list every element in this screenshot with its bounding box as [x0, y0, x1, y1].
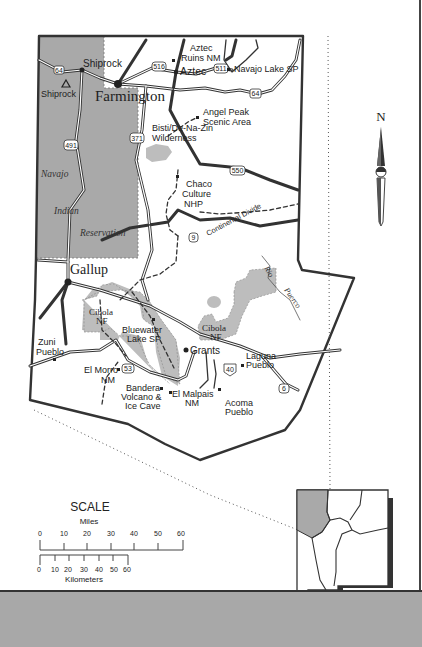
svg-text:516: 516 [153, 63, 165, 70]
label-bluewater-2: Lake SP [127, 334, 161, 344]
svg-text:9: 9 [192, 234, 196, 241]
label-el-malpais-2: NM [185, 398, 199, 408]
shield-511: 511 [214, 64, 228, 73]
km-tick-10: 10 [51, 566, 59, 573]
km-tick-40: 40 [95, 566, 103, 573]
gallup-dot [65, 279, 72, 286]
navajo-reservation-area [36, 36, 138, 258]
shield-9: 9 [189, 233, 198, 242]
label-aztec: Aztec [180, 65, 206, 77]
svg-text:511: 511 [215, 65, 226, 72]
angel-peak-marker [196, 116, 199, 119]
acoma-marker [218, 388, 221, 391]
shield-53: 53 [122, 364, 134, 373]
svg-text:491: 491 [65, 142, 77, 149]
grants-dot [184, 348, 189, 353]
leader-line-top [328, 36, 330, 490]
label-zuni-2: Pueblo [36, 347, 64, 357]
label-farmington: Farmington [95, 88, 165, 104]
label-laguna-2: Pueblo [246, 360, 274, 370]
svg-text:371: 371 [131, 135, 143, 142]
label-chaco-1: Chaco [186, 179, 212, 189]
label-aztec-ruins-1: Aztec [190, 43, 213, 53]
km-tick-30: 30 [80, 566, 88, 573]
label-cibola-east-2: NF [210, 332, 222, 342]
new-mexico-locator-map [297, 490, 393, 598]
label-indian: Indian [53, 206, 79, 216]
scale-km-label: Kilometers [65, 575, 103, 584]
shield-64-east: 64 [250, 89, 261, 98]
bisti-wilderness-area [146, 144, 172, 162]
label-angel-peak-1: Angel Peak [203, 107, 250, 117]
label-chaco-2: Culture [182, 189, 211, 199]
km-tick-20: 20 [64, 566, 72, 573]
chaco-marker [176, 175, 179, 178]
compass-north-arrow: N [376, 109, 386, 226]
page-edge-line [419, 0, 421, 590]
label-puerco: Puerco [282, 285, 303, 310]
shield-491: 491 [64, 140, 78, 150]
label-gallup: Gallup [70, 262, 108, 277]
zuni-marker [53, 358, 56, 361]
aztec-ruins-marker [172, 59, 175, 62]
bottom-gray-band [0, 590, 422, 647]
farmington-dot [114, 80, 122, 88]
km-tick-50: 50 [110, 566, 118, 573]
svg-text:64: 64 [55, 67, 63, 74]
label-aztec-ruins-2: Ruins NM [181, 53, 221, 63]
label-reservation: Reservation [79, 228, 126, 238]
km-tick-60: 60 [123, 566, 131, 573]
svg-text:550: 550 [232, 167, 244, 174]
bluewater-marker [152, 318, 155, 321]
svg-text:64: 64 [252, 90, 260, 97]
label-shiprock-peak: Shiprock [41, 89, 77, 99]
shield-550: 550 [230, 166, 245, 175]
svg-text:53: 53 [124, 365, 132, 372]
label-shiprock-town: Shiprock [83, 58, 123, 69]
label-acoma-2: Pueblo [225, 407, 253, 417]
label-navajo-lake: Navajo Lake SP [234, 64, 299, 74]
miles-tick-40: 40 [130, 530, 138, 537]
shield-6: 6 [279, 384, 289, 393]
compass-n-label: N [376, 109, 386, 124]
scale-title: SCALE [70, 500, 109, 514]
shield-40: 40 [224, 364, 236, 376]
miles-tick-50: 50 [154, 530, 162, 537]
miles-tick-0: 0 [38, 530, 42, 537]
label-zuni-1: Zuni [38, 337, 56, 347]
scale-bar: SCALE Miles 0 10 20 30 40 50 60 0 10 20 [37, 500, 185, 584]
miles-tick-10: 10 [60, 530, 68, 537]
miles-tick-60: 60 [177, 530, 185, 537]
navajo-lake-marker [227, 68, 230, 71]
aztec-dot [174, 70, 178, 74]
laguna-marker [241, 364, 244, 367]
scale-miles-label: Miles [80, 517, 99, 526]
shield-64-west: 64 [54, 66, 64, 74]
bandera-marker [160, 387, 163, 390]
label-el-morro-2: NM [101, 375, 115, 385]
shield-371: 371 [130, 133, 144, 143]
label-chaco-3: NHP [184, 199, 203, 209]
svg-text:40: 40 [226, 366, 234, 373]
miles-tick-30: 30 [107, 530, 115, 537]
svg-text:6: 6 [282, 385, 286, 392]
label-navajo: Navajo [40, 169, 69, 179]
km-tick-0: 0 [37, 566, 41, 573]
label-grants: Grants [190, 345, 220, 356]
label-bisti-2: Wilderness [152, 133, 197, 143]
shield-516: 516 [152, 62, 166, 71]
label-bandera-3: Ice Cave [125, 401, 161, 411]
label-bisti-1: Bisti/De-Na-Zin [152, 123, 213, 133]
miles-tick-20: 20 [83, 530, 91, 537]
label-el-morro-1: El Morro [84, 365, 118, 375]
label-cibola-west-2: NF [96, 316, 108, 326]
